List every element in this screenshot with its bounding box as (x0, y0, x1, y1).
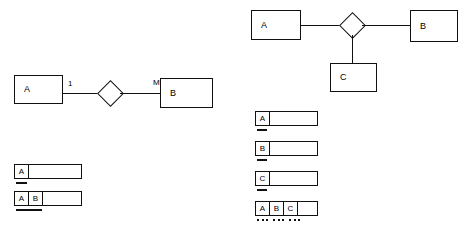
ternary-relation-abc-attr-1: B (270, 202, 284, 215)
ternary-er-diagram: A B C A B C A B C (240, 0, 467, 228)
ternary-connector-relationship-to-b (362, 25, 410, 26)
binary-relation-ab-key-underline (16, 209, 42, 211)
binary-relation-ab-attr-0: A (15, 192, 29, 205)
binary-connector-a-to-relationship (63, 93, 101, 94)
ternary-relation-b-body (270, 142, 317, 155)
binary-cardinality-many-label: M (153, 79, 160, 87)
ternary-relation-a-key-underline (257, 129, 267, 131)
binary-entity-b-label: B (161, 89, 176, 98)
binary-cardinality-one-label: 1 (68, 80, 72, 88)
binary-entity-a-label: A (15, 85, 30, 94)
ternary-relation-abc-attr-2: C (284, 202, 298, 215)
binary-relation-a-attr-0: A (15, 165, 29, 178)
binary-relation-ab-attr-1: B (29, 192, 43, 205)
ternary-entity-c-box[interactable]: C (330, 63, 377, 92)
ternary-entity-b-box[interactable]: B (410, 10, 458, 42)
ternary-entity-c-label: C (331, 73, 347, 82)
ternary-entity-a-label: A (252, 21, 267, 30)
ternary-relation-abc-fk-underline-b (273, 219, 284, 221)
ternary-relation-abc-fk-underline-a (257, 219, 268, 221)
ternary-relation-c-key-underline (257, 189, 267, 191)
binary-relation-a-key-underline (16, 182, 27, 184)
ternary-relation-b-attr-0: B (256, 142, 270, 155)
binary-relation-ab-body (43, 192, 81, 205)
ternary-relation-c-body (270, 172, 317, 185)
binary-relation-a-body (29, 165, 81, 178)
binary-entity-a-box[interactable]: A (14, 75, 63, 104)
ternary-relation-abc[interactable]: A B C (255, 201, 318, 216)
ternary-relation-a-attr-0: A (256, 112, 270, 125)
binary-relation-a[interactable]: A (14, 164, 82, 179)
binary-relation-ab[interactable]: A B (14, 191, 82, 206)
ternary-connector-relationship-to-c (352, 35, 353, 63)
ternary-relation-b-key-underline (257, 159, 267, 161)
ternary-relation-c-attr-0: C (256, 172, 270, 185)
ternary-connector-a-to-relationship (301, 25, 343, 26)
ternary-relation-abc-body (298, 202, 317, 215)
ternary-entity-b-label: B (411, 22, 426, 31)
ternary-relation-abc-fk-underline-c (289, 219, 300, 221)
ternary-relation-b[interactable]: B (255, 141, 318, 156)
ternary-relation-abc-attr-0: A (256, 202, 270, 215)
ternary-relation-c[interactable]: C (255, 171, 318, 186)
ternary-entity-a-box[interactable]: A (251, 10, 301, 40)
ternary-relation-a-body (270, 112, 317, 125)
binary-connector-relationship-to-b (120, 93, 160, 94)
binary-entity-b-box[interactable]: B (160, 78, 213, 108)
ternary-relation-a[interactable]: A (255, 111, 318, 126)
binary-er-diagram: A 1 M B A A B (0, 0, 234, 228)
